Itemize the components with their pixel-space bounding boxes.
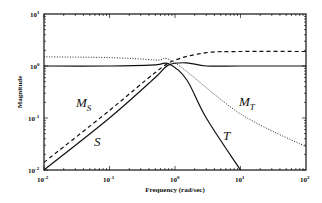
svg-text:100: 100 (30, 62, 40, 71)
x-axis-title: Frequency (rad/sec) (145, 186, 205, 194)
svg-text:10-1: 10-1 (103, 175, 115, 184)
svg-text:102: 102 (300, 175, 310, 184)
svg-text:10-2: 10-2 (37, 175, 49, 184)
plot-frame (44, 14, 306, 170)
svg-text:101: 101 (30, 10, 40, 19)
bode-magnitude-chart: 101 100 10-1 10-2 10-2 10-1 100 101 102 … (0, 0, 322, 203)
label-mt: MT (238, 94, 256, 112)
curve-s (44, 63, 306, 170)
curve-t (44, 63, 241, 170)
label-ms: MS (75, 95, 92, 113)
axis-ticks (44, 14, 306, 170)
svg-text:10-2: 10-2 (28, 166, 40, 175)
svg-text:101: 101 (235, 175, 245, 184)
label-t: T (223, 128, 231, 143)
svg-text:100: 100 (170, 175, 180, 184)
y-tick-labels: 101 100 10-1 10-2 (28, 10, 40, 175)
svg-text:10-1: 10-1 (28, 114, 40, 123)
x-tick-labels: 10-2 10-1 100 101 102 (37, 175, 310, 184)
label-s: S (94, 134, 101, 149)
y-axis-title: Magnitude (16, 76, 24, 109)
